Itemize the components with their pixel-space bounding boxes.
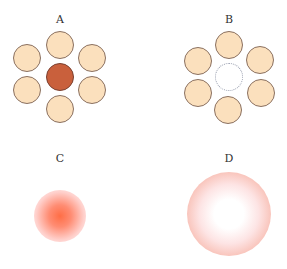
panel-d-label: D (225, 153, 234, 164)
panel-b-label: B (225, 14, 233, 25)
bead-bottom (46, 95, 74, 123)
concentrated-glow (34, 190, 86, 242)
bead-upper-left (13, 44, 41, 72)
center-vacancy (215, 63, 243, 91)
bead-upper-right (78, 44, 106, 72)
bead-bottom (214, 96, 242, 124)
panel-c-label: C (56, 153, 64, 164)
bead-top (215, 31, 243, 59)
center-bead-filled (46, 63, 74, 91)
bead-top (46, 31, 74, 59)
bead-lower-right (78, 76, 106, 104)
bead-lower-left (184, 79, 212, 107)
panel-a-label: A (56, 14, 64, 25)
bead-upper-right (246, 46, 274, 74)
bead-upper-left (184, 47, 212, 75)
bead-lower-right (247, 79, 275, 107)
bead-lower-left (13, 76, 41, 104)
diffuse-disc (187, 172, 271, 256)
